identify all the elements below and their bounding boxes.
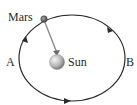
orbit-arrow-bottom-icon [64,98,71,104]
sun-label: Sun [68,55,87,69]
orbit-diagram: Mars Sun A B [0,0,137,105]
sun-icon [50,55,65,70]
point-b-label: B [126,55,134,69]
mars-label: Mars [8,10,33,24]
mars-icon [41,16,47,22]
point-a-label: A [6,55,15,69]
radius-line [44,20,57,53]
